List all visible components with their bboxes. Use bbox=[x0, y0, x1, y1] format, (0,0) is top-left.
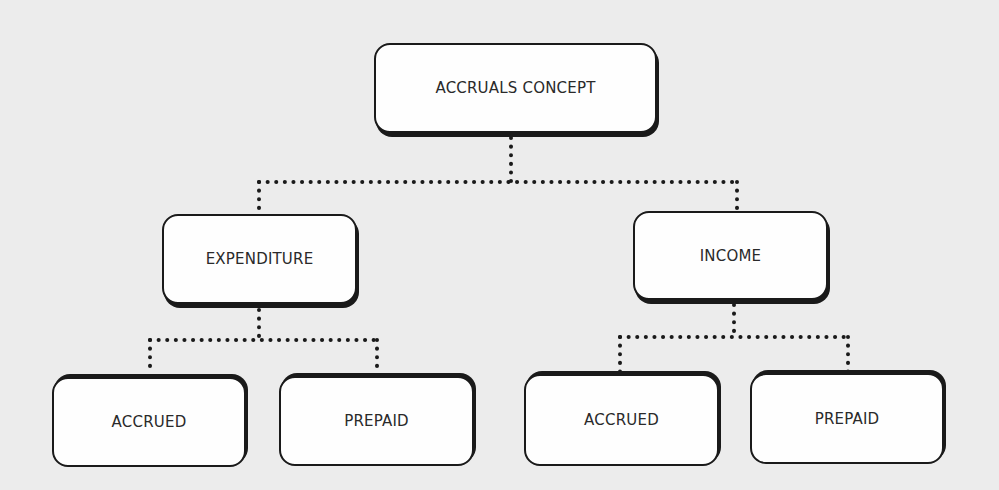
node-income-accrued: ACCRUED bbox=[524, 374, 719, 466]
node-expenditure-prepaid: PREPAID bbox=[279, 376, 474, 466]
expenditure-label: EXPENDITURE bbox=[206, 250, 314, 268]
node-expenditure: EXPENDITURE bbox=[162, 214, 357, 304]
income-prepaid-label: PREPAID bbox=[815, 410, 880, 428]
income-label: INCOME bbox=[700, 247, 762, 265]
expenditure-accrued-label: ACCRUED bbox=[112, 413, 187, 431]
expenditure-prepaid-label: PREPAID bbox=[344, 412, 409, 430]
root-label: ACCRUALS CONCEPT bbox=[435, 79, 595, 97]
root-node-accruals-concept: ACCRUALS CONCEPT bbox=[374, 43, 657, 133]
accruals-concept-diagram: ACCRUALS CONCEPT EXPENDITURE INCOME ACCR… bbox=[0, 0, 999, 490]
node-expenditure-accrued: ACCRUED bbox=[52, 377, 246, 467]
node-income-prepaid: PREPAID bbox=[750, 373, 944, 464]
income-accrued-label: ACCRUED bbox=[584, 411, 659, 429]
node-income: INCOME bbox=[633, 211, 828, 300]
